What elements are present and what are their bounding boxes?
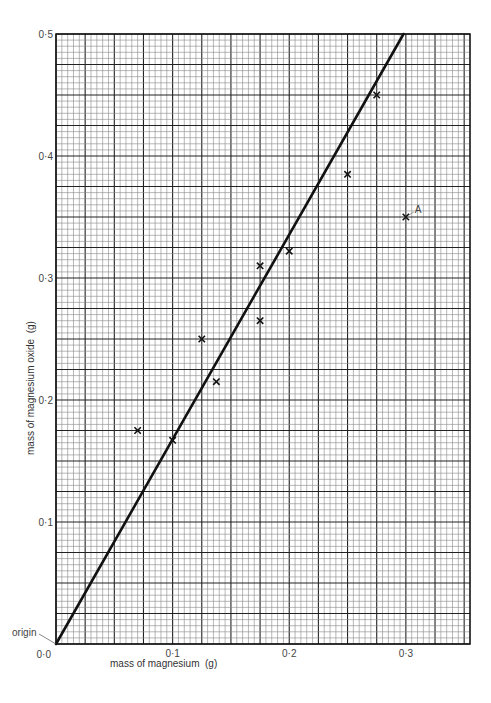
graph-paper-grid bbox=[56, 34, 470, 644]
x-axis-label: mass of magnesium (g) bbox=[110, 658, 217, 669]
x-tick-label: 0·3 bbox=[399, 648, 414, 659]
x-axis-ticks: 0·10·20·30·0 bbox=[37, 648, 414, 660]
origin-annotation: origin bbox=[12, 627, 56, 644]
y-axis-ticks: 0·10·20·30·40·5 bbox=[39, 29, 54, 528]
y-tick-label: 0·4 bbox=[39, 151, 54, 162]
y-tick-label: 0·3 bbox=[39, 273, 54, 284]
y-tick-label: 0·1 bbox=[39, 517, 54, 528]
point-label: A bbox=[415, 204, 422, 215]
origin-label: origin bbox=[12, 627, 36, 638]
y-tick-label: 0·2 bbox=[39, 395, 54, 406]
chart: A 0·10·20·30·0 0·10·20·30·40·5 mass of m… bbox=[0, 0, 491, 703]
y-tick-label: 0·5 bbox=[39, 29, 54, 40]
y-axis-label: mass of magnesium oxide (g) bbox=[25, 321, 36, 455]
data-points: A bbox=[134, 92, 421, 444]
x-tick-label: 0·2 bbox=[282, 648, 297, 659]
origin-tick-label: 0·0 bbox=[37, 649, 52, 660]
